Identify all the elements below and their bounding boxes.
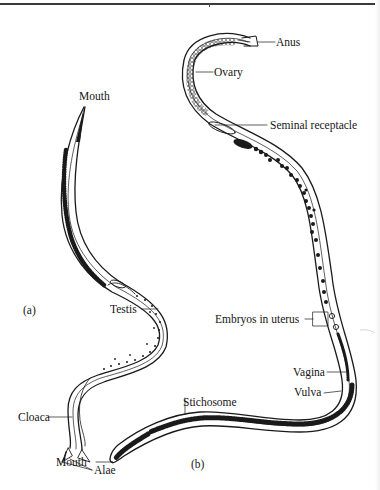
label-b-anus: Anus <box>276 36 300 48</box>
nematode-diagram <box>0 0 380 490</box>
label-b-ovary: Ovary <box>214 66 243 78</box>
label-a-alae: Alae <box>94 464 116 476</box>
label-a-cloaca: Cloaca <box>18 411 50 423</box>
label-a-mouth: Mouth <box>79 90 110 102</box>
panel-label-a: (a) <box>23 304 36 316</box>
label-b-vulva: Vulva <box>294 386 321 398</box>
label-b-vagina: Vagina <box>293 366 325 378</box>
label-b-seminal-receptacle: Seminal receptacle <box>270 119 357 131</box>
label-b-embryos-in-uterus: Embryos in uterus <box>215 313 299 325</box>
panel-label-b: (b) <box>191 458 204 470</box>
worm-a-male <box>48 107 167 470</box>
scan-page-edge <box>375 0 380 490</box>
label-b-stichosome: Stichosome <box>183 396 237 408</box>
label-a-testis: Testis <box>110 303 137 315</box>
label-b-mouth: Mouth <box>56 456 87 468</box>
